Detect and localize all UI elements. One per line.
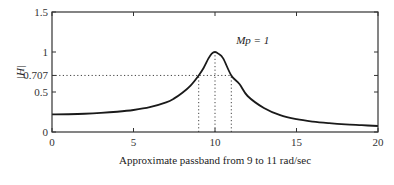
x-axis-title: Approximate passband from 9 to 11 rad/se…: [119, 154, 311, 166]
x-tick-label: 15: [291, 136, 303, 148]
y-tick-label: 1: [43, 46, 49, 58]
x-tick-label: 5: [131, 136, 137, 148]
y-tick-label: 0.707: [23, 69, 48, 81]
x-tick-label: 10: [210, 136, 222, 148]
y-axis-title: |H|: [14, 65, 26, 79]
x-tick-label: 20: [373, 136, 385, 148]
annotation-mp: Mp = 1: [235, 34, 269, 46]
reference-lines: [52, 52, 231, 132]
x-tick-label: 0: [49, 136, 55, 148]
y-tick-labels: 00.50.70711.5: [23, 6, 48, 138]
y-tick-label: 0: [43, 126, 49, 138]
x-tick-labels: 05101520: [49, 136, 384, 148]
y-tick-label: 1.5: [34, 6, 48, 18]
y-tick-label: 0.5: [34, 86, 48, 98]
frequency-response-chart: 05101520 00.50.70711.5 Approximate passb…: [0, 0, 394, 185]
